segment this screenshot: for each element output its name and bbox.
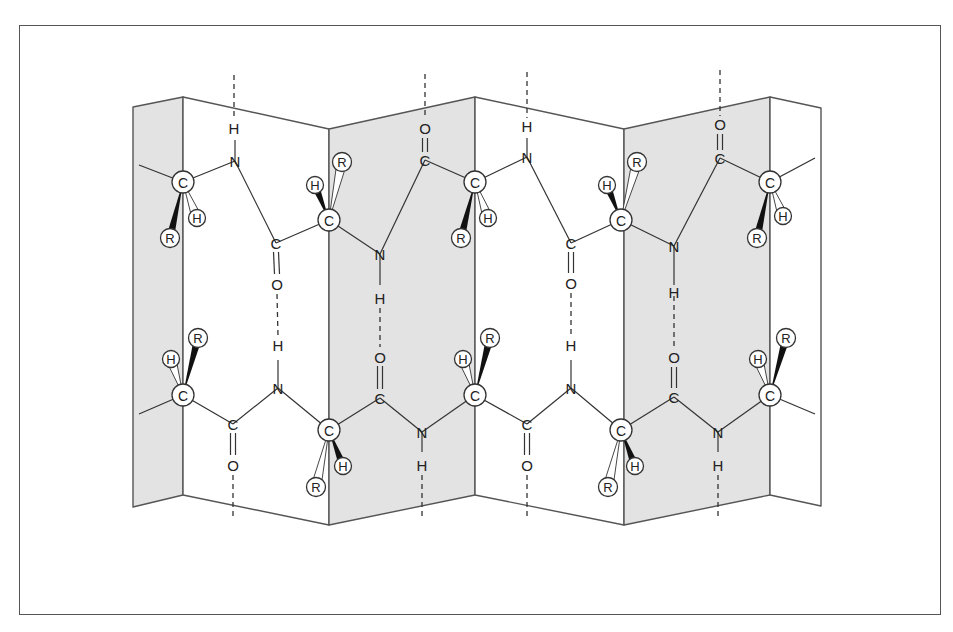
atom-c: C (420, 152, 431, 169)
atom-n: N (566, 380, 577, 397)
hydrogen-atom-label: H (483, 211, 492, 226)
atom-n: N (669, 238, 680, 255)
hydrogen-atom-label: H (458, 352, 467, 367)
atom-c: C (522, 416, 533, 433)
alpha-carbon: C (610, 419, 632, 441)
hydrogen-atom-label: H (310, 178, 319, 193)
atom-h: H (566, 337, 577, 354)
atom-n: N (230, 153, 241, 170)
atom-o: O (714, 116, 726, 133)
alpha-carbon: C (318, 209, 340, 231)
atom-h: H (375, 290, 386, 307)
alpha-carbon: C (759, 384, 781, 406)
alpha-carbon-label: C (470, 388, 480, 404)
atom-c: C (271, 235, 282, 252)
hydrogen-atom-label: H (338, 459, 347, 474)
alpha-carbon: C (172, 171, 194, 193)
r-group-label: R (485, 331, 494, 346)
alpha-carbon-label: C (178, 175, 188, 191)
r-group: R (161, 229, 180, 248)
r-group-label: R (337, 155, 346, 170)
r-group-label: R (632, 155, 641, 170)
atom-c: C (375, 390, 386, 407)
alpha-carbon-label: C (765, 388, 775, 404)
atom-c: C (669, 389, 680, 406)
atom-o: O (271, 276, 283, 293)
alpha-carbon-label: C (616, 423, 626, 439)
atom-n: N (713, 424, 724, 441)
hydrogen-atom: H (627, 458, 644, 475)
hydrogen-atom: H (455, 351, 472, 368)
alpha-carbon: C (464, 171, 486, 193)
hydrogen-atom-label: H (753, 352, 762, 367)
sheet-panel-2 (183, 97, 329, 525)
hydrogen-atom: H (599, 177, 616, 194)
alpha-carbon-label: C (324, 423, 334, 439)
alpha-carbon-label: C (616, 213, 626, 229)
hydrogen-atom-label: H (630, 459, 639, 474)
alpha-carbon: C (318, 419, 340, 441)
atom-h: H (522, 118, 533, 135)
r-group-label: R (311, 480, 320, 495)
beta-sheet-diagram: HNCOOCNHHNCOOCNHHNCOOCNHHNCOOCNH HRCHRCH… (0, 0, 953, 632)
atom-c: C (715, 150, 726, 167)
alpha-carbon: C (610, 209, 632, 231)
atom-h: H (273, 337, 284, 354)
sheet-panel-4 (475, 97, 624, 525)
atom-o: O (668, 349, 680, 366)
atom-h: H (669, 284, 680, 301)
r-group-label: R (603, 480, 612, 495)
r-group: R (777, 329, 796, 348)
atom-n: N (417, 424, 428, 441)
r-group-label: R (456, 231, 465, 246)
atom-o: O (419, 120, 431, 137)
hydrogen-atom-label: H (166, 352, 175, 367)
alpha-carbon: C (172, 384, 194, 406)
atom-h: H (229, 120, 240, 137)
hydrogen-atom: H (750, 351, 767, 368)
atom-n: N (375, 246, 386, 263)
r-group-label: R (193, 331, 202, 346)
r-group: R (452, 229, 471, 248)
r-group: R (481, 329, 500, 348)
hydrogen-atom: H (307, 177, 324, 194)
atom-o: O (374, 349, 386, 366)
atom-c: C (566, 235, 577, 252)
sheet-panel-1 (133, 97, 183, 507)
hydrogen-atom: H (163, 351, 180, 368)
r-group: R (599, 478, 618, 497)
r-group: R (748, 229, 767, 248)
atom-h: H (417, 457, 428, 474)
hydrogen-atom: H (189, 210, 206, 227)
atom-o: O (565, 275, 577, 292)
atom-n: N (273, 380, 284, 397)
r-group: R (333, 153, 352, 172)
r-group-label: R (752, 231, 761, 246)
alpha-carbon-label: C (765, 175, 775, 191)
r-group: R (628, 153, 647, 172)
alpha-carbon-label: C (470, 175, 480, 191)
atom-h: H (713, 457, 724, 474)
atom-c: C (228, 416, 239, 433)
alpha-carbon: C (759, 171, 781, 193)
hydrogen-atom: H (480, 210, 497, 227)
r-group-label: R (165, 231, 174, 246)
r-group: R (307, 478, 326, 497)
alpha-carbon-label: C (178, 388, 188, 404)
atom-o: O (521, 457, 533, 474)
hydrogen-atom: H (335, 458, 352, 475)
atom-o: O (227, 457, 239, 474)
hydrogen-atom-label: H (778, 209, 787, 224)
atom-n: N (522, 149, 533, 166)
hydrogen-atom: H (775, 208, 792, 225)
r-group: R (189, 329, 208, 348)
alpha-carbon-label: C (324, 213, 334, 229)
alpha-carbon: C (464, 384, 486, 406)
hydrogen-atom-label: H (192, 211, 201, 226)
r-group-label: R (781, 331, 790, 346)
hydrogen-atom-label: H (602, 178, 611, 193)
